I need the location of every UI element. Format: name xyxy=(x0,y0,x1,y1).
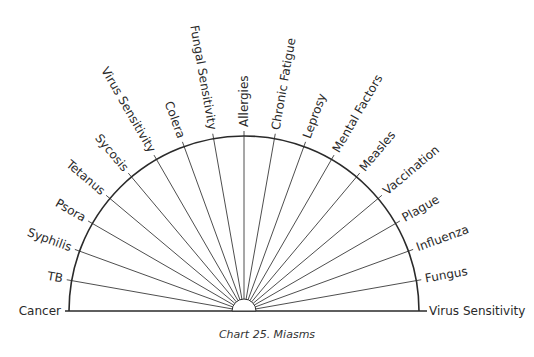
chart-label: Leprosy xyxy=(300,92,329,141)
chart-label: Chronic Fatigue xyxy=(269,37,299,131)
chart-label: Tetanus xyxy=(63,157,108,198)
chart-spoke xyxy=(67,280,232,309)
chart-spoke xyxy=(253,195,382,303)
chart-labels: CancerTBSyphilisPsoraTetanusSycosisVirus… xyxy=(19,24,526,318)
chart-spoke xyxy=(255,249,413,306)
chart-label: TB xyxy=(45,269,64,286)
chart-label: Measles xyxy=(357,128,399,174)
chart-spoke xyxy=(154,155,238,300)
chart-label: Vaccination xyxy=(380,143,442,198)
chart-spoke xyxy=(256,280,421,309)
chart-spoke xyxy=(182,142,239,300)
chart-label: Psora xyxy=(53,196,88,225)
chart-caption: Chart 25. Miasms xyxy=(0,328,534,341)
chart-spoke xyxy=(75,249,233,306)
chart-spoke xyxy=(88,221,233,305)
chart-spoke xyxy=(250,155,334,300)
chart-spoke xyxy=(254,221,399,305)
chart-label: Plague xyxy=(400,192,442,224)
chart-spoke xyxy=(248,142,305,300)
miasms-chart: CancerTBSyphilisPsoraTetanusSycosisVirus… xyxy=(0,0,534,357)
chart-spoke xyxy=(246,134,275,299)
chart-label: Influenza xyxy=(414,222,470,254)
chart-label: Colera xyxy=(162,99,188,140)
chart-label: Fungus xyxy=(424,264,469,285)
chart-label: Virus Sensitivity xyxy=(429,304,525,318)
chart-spoke xyxy=(213,134,242,299)
chart-label: Cancer xyxy=(19,304,61,318)
chart-spoke xyxy=(128,173,236,302)
chart-label: Sycosis xyxy=(92,131,131,174)
chart-spoke xyxy=(252,173,360,302)
chart-label: Fungal Sensitivity xyxy=(187,24,219,131)
chart-label: Allergies xyxy=(237,75,251,127)
chart-label: Syphilis xyxy=(25,225,73,254)
chart-spoke xyxy=(106,195,235,303)
